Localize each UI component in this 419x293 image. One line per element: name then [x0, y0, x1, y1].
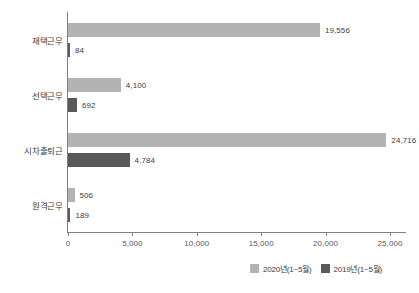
bar-value-label: 189 — [75, 210, 89, 219]
category-label: 원격근무 — [0, 199, 63, 211]
bar-value-label: 692 — [82, 100, 96, 109]
x-axis-line — [67, 232, 406, 233]
bar-value-label: 84 — [75, 45, 84, 54]
chart-legend: 2020년(1~5월)2019년(1~5월) — [250, 263, 382, 274]
x-axis-tick-label: 15,000 — [249, 239, 274, 248]
x-axis-tick-mark — [132, 232, 133, 236]
x-axis-tick-label: 5,000 — [122, 239, 143, 248]
x-axis-tick-label: 0 — [66, 239, 71, 248]
bar-series-2020[interactable] — [68, 23, 320, 37]
legend-swatch-icon — [321, 264, 330, 273]
x-axis-tick-label: 20,000 — [313, 239, 338, 248]
category-label: 재택근무 — [0, 34, 63, 46]
x-axis-tick-label: 10,000 — [184, 239, 209, 248]
x-axis-tick-mark — [68, 232, 69, 236]
bar-value-label: 506 — [80, 190, 94, 199]
bar-value-label: 19,556 — [325, 25, 350, 34]
bar-series-2019[interactable] — [68, 153, 130, 167]
bar-value-label: 24,716 — [391, 135, 416, 144]
legend-item[interactable]: 2019년(1~5월) — [321, 263, 383, 274]
bar-series-2019[interactable] — [68, 98, 77, 112]
legend-label: 2020년(1~5월) — [263, 263, 312, 274]
bar-value-label: 4,784 — [135, 155, 156, 164]
legend-swatch-icon — [250, 264, 259, 273]
bar-chart: 05,00010,00015,00020,00025,000 재택근무선택근무시… — [0, 0, 419, 293]
x-axis-tick-mark — [197, 232, 198, 236]
x-axis-tick-mark — [326, 232, 327, 236]
bar-series-2020[interactable] — [68, 133, 386, 147]
bar-series-2019[interactable] — [68, 43, 70, 57]
x-axis-tick-label: 25,000 — [377, 239, 402, 248]
x-axis-tick-mark — [261, 232, 262, 236]
legend-item[interactable]: 2020년(1~5월) — [250, 263, 312, 274]
bar-series-2019[interactable] — [68, 208, 70, 222]
bar-series-2020[interactable] — [68, 78, 121, 92]
bar-value-label: 4,100 — [126, 80, 147, 89]
category-label: 선택근무 — [0, 89, 63, 101]
bar-series-2020[interactable] — [68, 188, 75, 202]
legend-label: 2019년(1~5월) — [334, 263, 383, 274]
category-label: 시차출퇴근 — [0, 144, 63, 156]
x-axis-tick-mark — [390, 232, 391, 236]
